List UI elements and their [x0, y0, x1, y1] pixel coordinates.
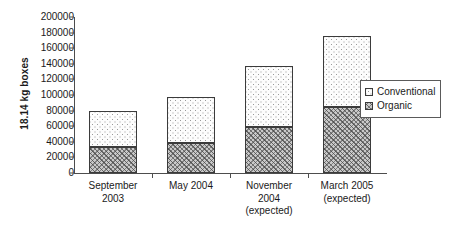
x-axis-category-labels: September2003May 2004November2004(expect… — [74, 180, 386, 228]
bar-segment-organic — [167, 143, 215, 173]
x-axis-label-line: May 2004 — [152, 180, 230, 193]
x-axis-label-line: 2003 — [74, 193, 152, 206]
y-axis-tick-label: 200000 — [41, 12, 74, 22]
bar-segment-organic — [89, 147, 137, 173]
legend-item-conventional[interactable]: Conventional — [365, 85, 435, 99]
x-axis-separator — [152, 173, 153, 178]
legend-swatch-icon — [365, 102, 373, 110]
y-axis-tick-label: 100000 — [41, 90, 74, 100]
x-axis-separator — [308, 173, 309, 178]
x-axis-label-3: November2004(expected) — [230, 180, 308, 218]
y-axis-tick-mark — [70, 79, 74, 80]
bar-segment-conventional — [167, 97, 215, 144]
y-axis-tick-mark — [70, 95, 74, 96]
x-axis-label-2: May 2004 — [152, 180, 230, 193]
y-axis-tick-mark — [70, 110, 74, 111]
y-axis-tick-mark — [70, 157, 74, 158]
y-axis-tick-mark — [70, 32, 74, 33]
y-axis-tick-mark — [70, 63, 74, 64]
x-axis-label-line: March 2005 — [308, 180, 386, 193]
y-axis-tick-mark — [70, 173, 74, 174]
x-axis-label-line: (expected) — [230, 205, 308, 218]
x-axis-label-1: September2003 — [74, 180, 152, 205]
x-axis-label-line: November — [230, 180, 308, 193]
legend-item-label: Organic — [377, 101, 412, 111]
y-axis-tick-label: 160000 — [41, 43, 74, 53]
y-axis-tick-label: 140000 — [41, 59, 74, 69]
bar-segment-conventional — [245, 66, 293, 127]
plot-area — [74, 17, 386, 173]
x-axis-label-line: 2004 — [230, 193, 308, 206]
x-axis-label-line: September — [74, 180, 152, 193]
x-axis-label-4: March 2005(expected) — [308, 180, 386, 205]
x-axis-label-line: (expected) — [308, 193, 386, 206]
stacked-bar-chart: 18.14 kg boxes 2000001800001600001400001… — [0, 0, 454, 230]
legend-item-organic[interactable]: Organic — [365, 99, 435, 113]
bar-3 — [245, 66, 293, 173]
x-axis-separator — [230, 173, 231, 178]
y-axis-tick-labels: 2000001800001600001400001200001000008000… — [26, 11, 74, 175]
legend: ConventionalOrganic — [360, 80, 441, 118]
bar-segment-organic — [245, 127, 293, 173]
legend-swatch-icon — [365, 88, 373, 96]
y-axis-tick-label: 120000 — [41, 74, 74, 84]
y-axis-tick-label: 180000 — [41, 28, 74, 38]
y-axis-tick-mark — [70, 126, 74, 127]
y-axis-tick-mark — [70, 17, 74, 18]
y-axis-tick-mark — [70, 141, 74, 142]
y-axis-tick-mark — [70, 48, 74, 49]
bar-2 — [167, 97, 215, 173]
bar-1 — [89, 111, 137, 173]
y-axis-line — [74, 17, 75, 174]
legend-item-label: Conventional — [377, 87, 435, 97]
bar-segment-conventional — [89, 111, 137, 148]
